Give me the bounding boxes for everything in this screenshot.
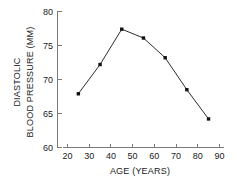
data-point [163,56,166,59]
y-axis-title-line-1: DIASTOLIC [12,57,22,106]
x-axis-title: AGE (YEARS) [110,166,170,176]
y-axis-title-line-2: BLOOD PRESSURE (MM) [25,27,35,138]
x-tick-label-50: 50 [128,151,138,161]
y-tick-label-65: 65 [43,109,53,119]
x-tick-label-20: 20 [62,151,72,161]
data-point [98,63,101,66]
x-tick-label-60: 60 [149,151,159,161]
diastolic-blood-pressure-line-chart: 80 75 70 65 60 20 30 40 50 60 70 80 90 [0,0,236,183]
x-tick-label-80: 80 [193,151,203,161]
data-point [207,117,210,120]
y-tick-label-75: 75 [43,41,53,51]
y-tick-label-60: 60 [43,143,53,153]
data-point [77,92,80,95]
chart-figure: 80 75 70 65 60 20 30 40 50 60 70 80 90 [0,0,236,183]
x-tick-label-70: 70 [171,151,181,161]
data-point [142,36,145,39]
data-point [185,88,188,91]
x-tick-label-40: 40 [106,151,116,161]
y-tick-label-70: 70 [43,75,53,85]
x-tick-label-30: 30 [84,151,94,161]
data-point [120,27,123,30]
x-tick-label-90: 90 [214,151,224,161]
y-tick-label-80: 80 [43,7,53,17]
